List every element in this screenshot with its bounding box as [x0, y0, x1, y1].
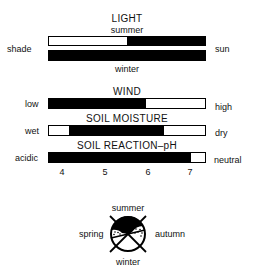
wind-bar-fill — [49, 99, 146, 108]
soil-reaction-neutral-label: neutral — [214, 155, 242, 165]
ph-tick-7: 7 — [187, 167, 192, 177]
soil-moisture-wet-label: wet — [25, 126, 39, 136]
soil-reaction-title: SOIL REACTION–pH — [77, 140, 177, 151]
light-winter-bar-fill — [49, 51, 205, 60]
ph-tick-4: 4 — [59, 167, 64, 177]
light-summer-bar-fill — [127, 37, 205, 45]
wind-low-label: low — [25, 99, 39, 109]
light-summer-label: summer — [111, 25, 144, 35]
soil-reaction-bar-fill — [49, 153, 191, 162]
wind-title: WIND — [113, 86, 141, 97]
soil-reaction-acidic-label: acidic — [15, 153, 38, 163]
soil-reaction-bar — [48, 152, 206, 163]
wind-bar — [48, 98, 206, 109]
light-sun-label: sun — [215, 44, 230, 54]
ph-tick-5: 5 — [102, 167, 107, 177]
light-shade-label: shade — [7, 44, 32, 54]
soil-moisture-dry-label: dry — [215, 128, 228, 138]
soil-moisture-bar-fill — [69, 126, 165, 135]
wind-high-label: high — [215, 102, 232, 112]
light-winter-label: winter — [115, 64, 139, 74]
soil-moisture-bar — [48, 125, 206, 136]
light-summer-bar — [48, 36, 206, 46]
season-winter-label: winter — [116, 257, 140, 267]
light-winter-bar — [48, 50, 206, 61]
ph-tick-6: 6 — [145, 167, 150, 177]
soil-moisture-title: SOIL MOISTURE — [86, 113, 168, 124]
season-autumn-label: autumn — [155, 229, 185, 239]
season-spring-label: spring — [79, 229, 104, 239]
season-circle-icon — [106, 212, 150, 256]
light-title: LIGHT — [112, 13, 143, 24]
